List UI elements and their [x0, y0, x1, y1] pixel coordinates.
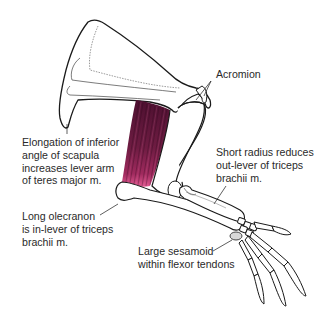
- label-sesamoid: Large sesamoid within flexor tendons: [138, 245, 235, 271]
- hand-bones: [237, 217, 306, 306]
- label-line: brachii m.: [22, 236, 113, 249]
- label-line: Short radius reduces: [216, 146, 314, 159]
- label-olecranon: Long olecranon is in-lever of triceps br…: [22, 210, 113, 248]
- label-line: brachii m.: [216, 172, 314, 185]
- label-line: angle of scapula: [22, 149, 119, 162]
- label-line: Elongation of inferior: [22, 136, 119, 149]
- sesamoid-bone: [230, 232, 242, 240]
- label-inferior-angle: Elongation of inferior angle of scapula …: [22, 136, 119, 187]
- label-line: of teres major m.: [22, 174, 119, 187]
- label-line: Acromion: [216, 68, 261, 81]
- label-acromion: Acromion: [216, 68, 261, 81]
- label-line: Large sesamoid: [138, 245, 235, 258]
- label-line: increases lever arm: [22, 162, 119, 175]
- label-line: out-lever of triceps: [216, 159, 314, 172]
- label-line: is in-lever of triceps: [22, 223, 113, 236]
- label-short-radius: Short radius reduces out-lever of tricep…: [216, 146, 314, 184]
- label-line: within flexor tendons: [138, 258, 235, 271]
- label-line: Long olecranon: [22, 210, 113, 223]
